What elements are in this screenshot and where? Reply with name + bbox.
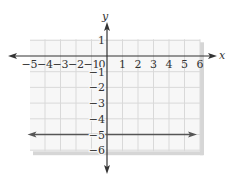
- graph: xy −5−4−3−2−101234561−1−2−3−4−5−6: [0, 0, 226, 179]
- x-tick-label: −2: [68, 58, 84, 71]
- grid-shadow-bottom: [33, 151, 203, 155]
- y-tick-label: −1: [89, 66, 105, 79]
- grid-background: [30, 39, 204, 155]
- y-tick-label: −2: [89, 81, 105, 94]
- x-tick-label: 2: [135, 58, 142, 71]
- y-axis-label: y: [101, 10, 109, 23]
- x-tick-label: 5: [181, 58, 188, 71]
- y-tick-label: 1: [98, 34, 105, 47]
- x-tick-label: 3: [150, 58, 157, 71]
- y-tick-label: −3: [89, 97, 105, 110]
- y-tick-label: −5: [89, 129, 105, 142]
- x-tick-label: 4: [166, 58, 173, 71]
- x-tick-label: 1: [119, 58, 126, 71]
- x-tick-label: −3: [52, 58, 68, 71]
- x-tick-label: −4: [37, 58, 53, 71]
- x-tick-label: −5: [21, 58, 37, 71]
- x-axis-label: x: [219, 49, 226, 62]
- x-tick-label: 6: [197, 58, 204, 71]
- y-tick-label: −6: [89, 144, 105, 157]
- y-tick-label: −4: [89, 113, 105, 126]
